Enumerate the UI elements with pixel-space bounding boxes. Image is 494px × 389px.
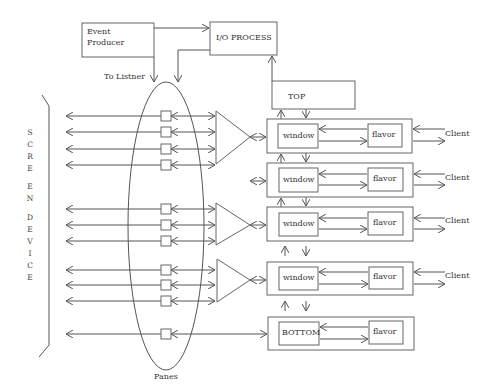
top-label: TOP — [288, 92, 305, 102]
mux-triangle-2 — [216, 203, 250, 245]
client-label-1: Client — [445, 129, 469, 139]
letter: S — [25, 127, 35, 139]
window-label-2: window — [283, 175, 314, 185]
pane-group-2 — [66, 203, 266, 246]
client-label-2: Client — [445, 173, 469, 183]
mux-triangle-1 — [216, 111, 250, 164]
letter: C — [25, 260, 35, 272]
letter: E — [25, 272, 35, 284]
letter: C — [25, 139, 35, 151]
device-letters: D E V I C E — [25, 212, 35, 284]
letter: E — [25, 163, 35, 175]
letter: I — [25, 248, 35, 260]
letter: E — [25, 224, 35, 236]
event-producer-label-2: Producer — [87, 38, 124, 48]
to-listner-label: To Listner — [104, 72, 145, 82]
architecture-diagram: Event Producer I/O PROCESS To Listner TO… — [0, 0, 494, 389]
screen-letters: S C R E — [25, 127, 35, 175]
flavor-label-1: flavor — [372, 130, 395, 140]
letter: V — [25, 236, 35, 248]
window-label-4: window — [283, 273, 314, 283]
io-to-panes-arrow — [178, 50, 210, 82]
pane-group-1 — [66, 111, 266, 170]
flavor-label-3: flavor — [373, 218, 396, 228]
en-letters: E N — [25, 181, 35, 205]
screen-device-bracket — [39, 95, 49, 357]
pane-group-3 — [66, 259, 266, 306]
flavor-label-bottom: flavor — [373, 327, 396, 337]
mux-triangle-3 — [217, 259, 250, 302]
client-label-3: Client — [445, 216, 469, 226]
bottom-label: BOTTOM — [282, 328, 320, 338]
flavor-label-4: flavor — [373, 272, 396, 282]
event-producer-label-1: Event — [87, 27, 110, 37]
letter: E — [25, 181, 35, 193]
letter: N — [25, 193, 35, 205]
top-box — [272, 81, 355, 109]
pane-group-bottom — [66, 329, 267, 339]
window-label-3: window — [283, 219, 314, 229]
panes-label: Panes — [154, 372, 178, 382]
window-label-1: window — [283, 131, 314, 141]
flavor-label-2: flavor — [373, 174, 396, 184]
letter: R — [25, 151, 35, 163]
io-process-label: I/O PROCESS — [216, 33, 272, 43]
client-label-4: Client — [445, 271, 469, 281]
letter: D — [25, 212, 35, 224]
